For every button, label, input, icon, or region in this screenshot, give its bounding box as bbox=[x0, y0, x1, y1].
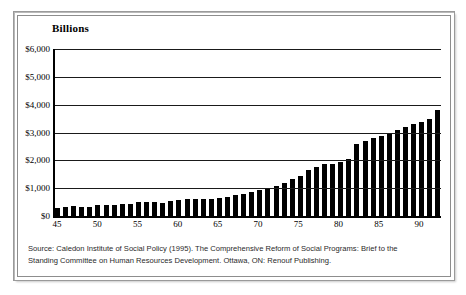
source-line-2: Standing Committee on Human Resources De… bbox=[28, 255, 438, 267]
bar bbox=[136, 202, 141, 216]
bar bbox=[403, 127, 408, 216]
bar bbox=[144, 202, 149, 216]
bar bbox=[63, 207, 68, 216]
bar bbox=[354, 144, 359, 216]
bar bbox=[95, 205, 100, 216]
bar bbox=[112, 205, 117, 216]
y-axis-label: $2,000 bbox=[25, 155, 50, 165]
x-axis-label: 45 bbox=[53, 219, 62, 229]
x-axis-label: 70 bbox=[254, 219, 263, 229]
bar bbox=[87, 207, 92, 216]
bar bbox=[71, 206, 76, 216]
y-axis-label: $3,000 bbox=[25, 128, 50, 138]
bar bbox=[225, 197, 230, 216]
bar bbox=[209, 199, 214, 216]
bar bbox=[104, 205, 109, 216]
bar bbox=[298, 176, 303, 216]
bar bbox=[379, 136, 384, 216]
bar bbox=[217, 198, 222, 216]
plot-area bbox=[53, 49, 441, 218]
bar bbox=[193, 199, 198, 216]
bar bbox=[395, 130, 400, 216]
bar bbox=[185, 199, 190, 216]
x-axis-label: 55 bbox=[133, 219, 142, 229]
figure: Billions $0$1,000$2,000$3,000$4,000$5,00… bbox=[0, 0, 466, 295]
bar bbox=[120, 204, 125, 216]
x-axis-label: 60 bbox=[173, 219, 182, 229]
x-axis-label: 75 bbox=[294, 219, 303, 229]
y-axis-label: $5,000 bbox=[25, 72, 50, 82]
bar bbox=[265, 188, 270, 216]
bar bbox=[314, 167, 319, 216]
gridline bbox=[55, 105, 441, 106]
bar bbox=[419, 122, 424, 216]
bar bbox=[411, 124, 416, 216]
bar bbox=[257, 190, 262, 216]
bar bbox=[435, 110, 440, 216]
bar bbox=[160, 203, 165, 216]
x-axis-label: 50 bbox=[93, 219, 102, 229]
bar bbox=[322, 164, 327, 216]
bar bbox=[128, 204, 133, 216]
x-axis-label: 85 bbox=[374, 219, 383, 229]
bar bbox=[233, 195, 238, 216]
bar bbox=[55, 208, 60, 216]
bar bbox=[363, 141, 368, 216]
x-axis-label: 65 bbox=[213, 219, 222, 229]
y-axis-label: $0 bbox=[41, 211, 50, 221]
bar bbox=[427, 119, 432, 216]
gridline bbox=[55, 49, 441, 50]
bar bbox=[274, 186, 279, 216]
bar bbox=[201, 199, 206, 216]
bar bbox=[306, 170, 311, 216]
bar bbox=[152, 202, 157, 216]
bar bbox=[176, 200, 181, 216]
bar bbox=[241, 194, 246, 216]
bar bbox=[387, 133, 392, 216]
y-axis-label: $1,000 bbox=[25, 183, 50, 193]
gridline bbox=[55, 188, 441, 189]
x-axis: 45505560657075808590 bbox=[53, 219, 439, 235]
bar bbox=[290, 179, 295, 216]
x-axis-label: 90 bbox=[414, 219, 423, 229]
gridline bbox=[55, 77, 441, 78]
bar bbox=[79, 207, 84, 216]
y-axis-label: $6,000 bbox=[25, 44, 50, 54]
source-citation: Source: Caledon Institute of Social Poli… bbox=[28, 243, 438, 266]
source-line-1: Source: Caledon Institute of Social Poli… bbox=[28, 243, 438, 255]
chart-title: Billions bbox=[52, 22, 89, 34]
bar bbox=[371, 138, 376, 216]
gridline bbox=[55, 160, 441, 161]
bar bbox=[330, 164, 335, 216]
gridline bbox=[55, 133, 441, 134]
bar bbox=[168, 201, 173, 216]
x-axis-label: 80 bbox=[334, 219, 343, 229]
y-axis-label: $4,000 bbox=[25, 100, 50, 110]
bar bbox=[249, 192, 254, 216]
